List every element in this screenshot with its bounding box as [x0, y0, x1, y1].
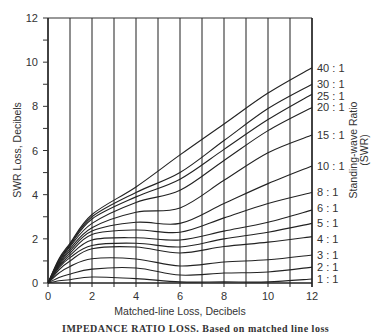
y-tick-label: 12 — [26, 12, 38, 24]
swr-label: 6 : 1 — [317, 202, 338, 214]
swr-label: 4 : 1 — [317, 233, 338, 245]
swr-label: 40 : 1 — [317, 62, 345, 74]
x-tick-label: 0 — [45, 290, 51, 302]
swr-label: 20 : 1 — [317, 101, 345, 113]
x-tick-label: 4 — [133, 290, 139, 302]
y-tick-label: 10 — [26, 56, 38, 68]
x-axis-ticks: 024681012 — [45, 290, 318, 302]
x-tick-label: 10 — [262, 290, 274, 302]
x-tick-label: 8 — [221, 290, 227, 302]
right-axis-label-line2: (SWR) — [358, 134, 370, 166]
swr-label: 30 : 1 — [317, 78, 345, 90]
swr-label: 25 : 1 — [317, 90, 345, 102]
swr-label: 8 : 1 — [317, 186, 338, 198]
y-tick-label: 6 — [32, 145, 38, 157]
y-tick-label: 2 — [32, 233, 38, 245]
y-axis-label: SWR Loss, Decibels — [11, 102, 23, 198]
swr-label: 10 : 1 — [317, 160, 345, 172]
y-tick-label: 0 — [32, 277, 38, 289]
swr-label: 3 : 1 — [317, 249, 338, 261]
x-tick-label: 12 — [306, 290, 318, 302]
swr-label: 15 : 1 — [317, 129, 345, 141]
swr-label: 5 : 1 — [317, 217, 338, 229]
swr-label: 1 : 1 — [317, 273, 338, 285]
y-tick-label: 4 — [32, 189, 38, 201]
x-tick-label: 6 — [177, 290, 183, 302]
swr-label: 2 : 1 — [317, 261, 338, 273]
swr-ratio-labels: 40 : 130 : 125 : 120 : 115 : 110 : 18 : … — [317, 62, 345, 285]
y-axis-ticks: 024681012 — [26, 12, 48, 289]
figure-caption: IMPEDANCE RATIO LOSS. Based on matched l… — [62, 323, 329, 334]
x-tick-label: 2 — [89, 290, 95, 302]
y-tick-label: 8 — [32, 100, 38, 112]
x-axis-label: Matched-line Loss, Decibels — [114, 305, 245, 317]
